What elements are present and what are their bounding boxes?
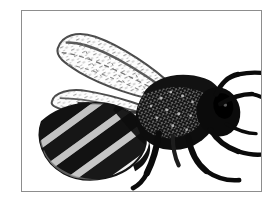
figure-frame: Black and white engraved illustration of… <box>21 10 262 192</box>
page-root: Black and white engraved illustration of… <box>0 0 278 208</box>
honey-bee-illustration: Black and white engraved illustration of… <box>22 11 261 191</box>
